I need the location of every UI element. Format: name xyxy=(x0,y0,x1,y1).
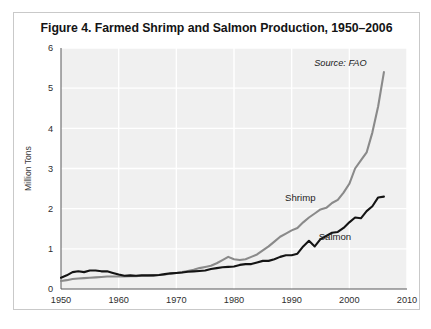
svg-text:1960: 1960 xyxy=(108,295,128,305)
svg-text:1970: 1970 xyxy=(166,295,186,305)
svg-text:1950: 1950 xyxy=(51,295,71,305)
svg-text:Salmon: Salmon xyxy=(319,231,352,242)
svg-text:3: 3 xyxy=(48,164,53,174)
svg-text:0: 0 xyxy=(48,284,53,294)
svg-text:1990: 1990 xyxy=(281,295,301,305)
production-line-chart: 0123456 1950196019701980199020002010 Mil… xyxy=(14,13,419,309)
figure-container: Figure 4. Farmed Shrimp and Salmon Produ… xyxy=(13,12,420,310)
x-axis-tick-labels: 1950196019701980199020002010 xyxy=(51,295,417,305)
svg-text:1: 1 xyxy=(48,244,53,254)
svg-text:Million Tons: Million Tons xyxy=(23,146,33,191)
y-axis-tick-labels: 0123456 xyxy=(48,43,53,294)
svg-text:2: 2 xyxy=(48,204,53,214)
svg-text:5: 5 xyxy=(48,83,53,93)
y-axis-title: Million Tons xyxy=(23,146,33,191)
svg-text:6: 6 xyxy=(48,43,53,53)
svg-text:4: 4 xyxy=(48,124,53,134)
svg-text:1980: 1980 xyxy=(224,295,244,305)
svg-text:2000: 2000 xyxy=(339,295,359,305)
svg-text:Source: FAO: Source: FAO xyxy=(314,58,366,68)
svg-text:2010: 2010 xyxy=(397,295,417,305)
svg-text:Shrimp: Shrimp xyxy=(285,192,315,203)
